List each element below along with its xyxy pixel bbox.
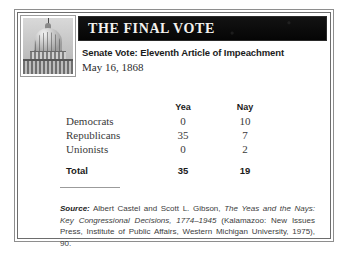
table-row: Democrats 0 10 (66, 114, 276, 128)
cell-nay: 2 (214, 142, 276, 156)
final-vote-card: THE FINAL VOTE Senate Vote: Eleventh Art… (14, 9, 334, 242)
column-header-yea: Yea (152, 99, 214, 114)
source-authors: Albert Castel and Scott L. Gibson, (90, 204, 224, 213)
table-body: Democrats 0 10 Republicans 35 7 Unionist… (66, 114, 276, 176)
table-row: Republicans 35 7 (66, 128, 276, 142)
table-header-row: Yea Nay (66, 99, 276, 114)
cell-yea: 35 (152, 128, 214, 142)
cell-yea: 0 (152, 114, 214, 128)
cell-total-yea: 35 (152, 156, 214, 176)
source-label: Source: (60, 204, 90, 213)
title-band: THE FINAL VOTE (78, 16, 327, 41)
source-divider (60, 187, 120, 188)
source-note: Source: Albert Castel and Scott L. Gibso… (60, 203, 315, 249)
vote-date: May 16, 1868 (82, 61, 143, 73)
table-row: Unionists 0 2 (66, 142, 276, 156)
vote-results-table: Yea Nay Democrats 0 10 Republicans 35 7 … (66, 99, 276, 176)
cell-party: Unionists (66, 142, 152, 156)
cell-total-nay: 19 (214, 156, 276, 176)
table-header: Yea Nay (66, 99, 276, 114)
final-vote-card-inner-frame: THE FINAL VOTE Senate Vote: Eleventh Art… (17, 12, 331, 239)
cell-party: Democrats (66, 114, 152, 128)
capitol-dome-icon (23, 18, 73, 74)
cell-nay: 7 (214, 128, 276, 142)
dome-base (23, 59, 73, 74)
capitol-dome-plate (20, 15, 76, 77)
page-title: THE FINAL VOTE (79, 21, 215, 37)
column-header-party (66, 99, 152, 114)
column-header-nay: Nay (214, 99, 276, 114)
cell-nay: 10 (214, 114, 276, 128)
table-total-row: Total 35 19 (66, 156, 276, 176)
cell-party: Republicans (66, 128, 152, 142)
cell-total-label: Total (66, 156, 152, 176)
vote-subtitle: Senate Vote: Eleventh Article of Impeach… (82, 47, 284, 58)
cell-yea: 0 (152, 142, 214, 156)
dome-ribs (35, 32, 61, 51)
